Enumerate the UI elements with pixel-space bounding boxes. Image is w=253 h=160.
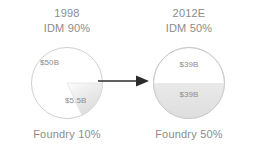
left-year-label: 1998 (12, 6, 122, 21)
right-idm-value-label: $39B (179, 60, 198, 69)
left-idm-share-label: IDM 90% (12, 21, 122, 36)
left-pie-chart: $50B $5.5B (30, 46, 104, 120)
left-title-block: 1998 IDM 90% (12, 6, 122, 36)
pie-comparison-figure: 1998 IDM 90% $50B $5.5B Foundry (0, 0, 253, 160)
right-slice-foundry (154, 83, 225, 119)
right-pie-svg (152, 46, 226, 120)
right-idm-share-label: IDM 50% (134, 21, 244, 36)
right-foundry-share-label: Foundry 50% (134, 128, 244, 140)
right-pie-chart: $39B $39B (152, 46, 226, 120)
left-foundry-share-label: Foundry 10% (12, 128, 122, 140)
left-foundry-value-label: $5.5B (65, 96, 86, 105)
panel-2012e: 2012E IDM 50% $39B $39B Foundry 50% (134, 0, 244, 160)
right-title-block: 2012E IDM 50% (134, 6, 244, 36)
right-foundry-value-label: $39B (179, 90, 198, 99)
left-idm-value-label: $50B (40, 58, 59, 67)
right-year-label: 2012E (134, 6, 244, 21)
